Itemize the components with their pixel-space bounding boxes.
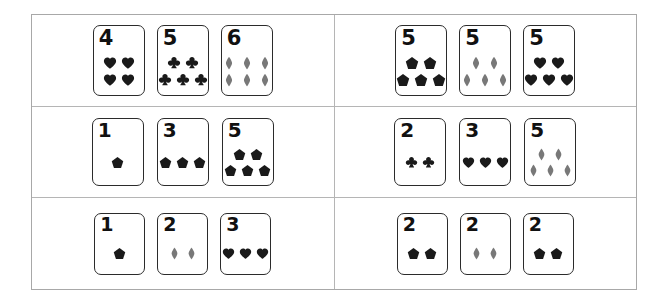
card-pip-group	[395, 144, 445, 181]
card-number: 4	[99, 27, 113, 49]
counting-card[interactable]: 5	[524, 118, 576, 186]
card-number: 5	[529, 27, 543, 49]
card-pip-row	[470, 247, 500, 260]
counting-card[interactable]: 2	[394, 118, 446, 186]
heart-icon	[121, 73, 135, 87]
card-strip: 235	[394, 118, 576, 186]
card-number: 1	[98, 120, 111, 141]
card-pip-row	[103, 73, 135, 87]
counting-card[interactable]: 5	[523, 25, 575, 96]
heart-icon	[222, 247, 235, 260]
counting-card[interactable]: 4	[93, 25, 145, 96]
counting-card[interactable]: 1	[92, 118, 144, 186]
heart-icon	[121, 56, 135, 70]
counting-card[interactable]: 6	[221, 25, 273, 96]
diamond-icon	[544, 164, 557, 177]
counting-card[interactable]: 5	[395, 25, 447, 96]
counting-card[interactable]: 2	[157, 213, 208, 275]
worksheet-cell: 123	[32, 198, 335, 289]
diamond-icon	[258, 73, 272, 87]
heart-icon	[560, 73, 574, 87]
card-strip: 222	[397, 213, 574, 275]
heart-icon	[542, 73, 556, 87]
worksheet-cell: 222	[335, 198, 637, 289]
card-pip-group	[460, 144, 510, 181]
card-pip-row	[527, 164, 574, 177]
pentagon-icon	[250, 148, 263, 161]
diamond-icon	[460, 73, 474, 87]
diamond-icon	[496, 73, 510, 87]
card-pip-row	[113, 247, 126, 260]
card-pip-group	[396, 52, 446, 91]
counting-card[interactable]: 3	[459, 118, 511, 186]
pentagon-icon	[432, 73, 446, 87]
worksheet-row: 456555	[32, 15, 636, 107]
card-pip-group	[524, 52, 574, 91]
club-icon	[167, 56, 181, 70]
card-pip-row	[111, 156, 124, 169]
card-pip-row	[533, 56, 565, 70]
card-pip-group	[398, 237, 447, 271]
pentagon-icon	[424, 247, 437, 260]
counting-card[interactable]: 3	[157, 118, 209, 186]
pentagon-icon	[407, 247, 420, 260]
club-icon	[194, 73, 208, 87]
card-pip-row	[222, 247, 269, 260]
counting-card[interactable]: 3	[220, 213, 271, 275]
heart-icon	[462, 156, 475, 169]
diamond-icon	[527, 164, 540, 177]
card-number: 2	[466, 215, 479, 235]
card-pip-group	[524, 237, 573, 271]
diamond-icon	[535, 148, 548, 161]
pentagon-icon	[550, 247, 563, 260]
diamond-icon	[185, 247, 198, 260]
card-pip-row	[168, 247, 198, 260]
card-pip-row	[103, 56, 135, 70]
card-pip-row	[460, 73, 510, 87]
counting-card[interactable]: 2	[397, 213, 448, 275]
card-pip-row	[222, 56, 272, 70]
card-pip-group	[158, 237, 207, 271]
card-pip-row	[167, 56, 199, 70]
pentagon-icon	[193, 156, 206, 169]
counting-cards-worksheet: 456555135235123222	[31, 14, 637, 290]
card-number: 2	[400, 120, 413, 141]
card-pip-group	[93, 144, 143, 181]
diamond-icon	[258, 56, 272, 70]
diamond-icon	[478, 73, 492, 87]
card-pip-row	[407, 247, 437, 260]
worksheet-row: 123222	[32, 198, 636, 289]
counting-card[interactable]: 5	[222, 118, 274, 186]
diamond-icon	[222, 73, 236, 87]
counting-card[interactable]: 2	[523, 213, 574, 275]
card-pip-group	[95, 237, 144, 271]
counting-card[interactable]: 5	[459, 25, 511, 96]
heart-icon	[551, 56, 565, 70]
counting-card[interactable]: 1	[94, 213, 145, 275]
card-number: 3	[163, 120, 176, 141]
heart-icon	[533, 56, 547, 70]
diamond-icon	[470, 247, 483, 260]
heart-icon	[524, 73, 538, 87]
diamond-icon	[469, 56, 483, 70]
pentagon-icon	[533, 247, 546, 260]
worksheet-row: 135235	[32, 107, 636, 199]
card-pip-row	[158, 73, 208, 87]
pentagon-icon	[258, 164, 271, 177]
card-number: 3	[465, 120, 478, 141]
diamond-icon	[168, 247, 181, 260]
counting-card[interactable]: 5	[157, 25, 209, 96]
heart-icon	[103, 73, 117, 87]
club-icon	[405, 156, 418, 169]
diamond-icon	[552, 148, 565, 161]
card-number: 1	[100, 215, 113, 235]
diamond-icon	[240, 56, 254, 70]
card-pip-group	[158, 52, 208, 91]
card-pip-group	[460, 52, 510, 91]
counting-card[interactable]: 2	[460, 213, 511, 275]
card-number: 2	[403, 215, 416, 235]
card-number: 6	[227, 27, 241, 49]
card-pip-row	[233, 148, 263, 161]
card-pip-row	[222, 73, 272, 87]
heart-icon	[496, 156, 509, 169]
